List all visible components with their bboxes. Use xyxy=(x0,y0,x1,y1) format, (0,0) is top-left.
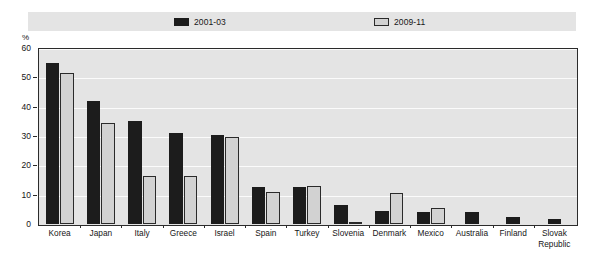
bar-2001-03 xyxy=(506,217,520,224)
bar-group xyxy=(328,49,369,224)
bar-2001-03 xyxy=(87,101,101,224)
y-axis-tick-label: 50 xyxy=(3,72,31,82)
bar-2001-03 xyxy=(375,211,389,224)
y-axis: 0102030405060 xyxy=(0,48,31,224)
y-axis-tick-label: 20 xyxy=(3,160,31,170)
legend-label-2001-03: 2001-03 xyxy=(194,17,226,27)
bar-2009-11 xyxy=(60,73,74,224)
legend-entry-2009-11: 2009-11 xyxy=(374,15,425,28)
bar-2009-11 xyxy=(266,192,280,224)
bar-2009-11 xyxy=(431,208,445,224)
bar-group xyxy=(121,49,162,224)
bar-2009-11 xyxy=(101,123,115,224)
y-axis-unit-label: % xyxy=(22,33,29,42)
y-axis-tick xyxy=(33,77,37,78)
bar-group xyxy=(204,49,245,224)
y-axis-tick xyxy=(33,195,37,196)
bar-2009-11 xyxy=(184,176,198,224)
x-axis-labels: KoreaJapanItalyGreeceIsraelSpainTurkeySl… xyxy=(39,228,575,258)
bar-group xyxy=(245,49,286,224)
y-axis-tick-label: 0 xyxy=(3,219,31,229)
bar-2009-11 xyxy=(349,222,363,224)
bar-2001-03 xyxy=(293,187,307,224)
bar-group xyxy=(369,49,410,224)
bar-2009-11 xyxy=(225,137,239,224)
bar-series-container xyxy=(39,49,575,224)
bar-2001-03 xyxy=(46,63,60,224)
y-axis-tick xyxy=(33,165,37,166)
bar-group xyxy=(80,49,121,224)
y-axis-tick-label: 10 xyxy=(3,190,31,200)
bar-2001-03 xyxy=(252,187,266,224)
bar-2009-11 xyxy=(390,193,404,224)
bar-2001-03 xyxy=(169,133,183,224)
bar-2001-03 xyxy=(548,219,562,224)
x-axis-category-label: Slovak Republic xyxy=(528,228,581,249)
bar-group xyxy=(163,49,204,224)
bar-2009-11 xyxy=(143,176,157,224)
chart-legend: 2001-03 2009-11 xyxy=(28,12,576,31)
bar-group xyxy=(410,49,451,224)
y-axis-tick-label: 40 xyxy=(3,102,31,112)
y-axis-tick xyxy=(33,107,37,108)
light-square-swatch-icon xyxy=(374,18,389,26)
y-axis-tick xyxy=(33,136,37,137)
bar-group xyxy=(451,49,492,224)
bar-2001-03 xyxy=(211,135,225,224)
bar-2001-03 xyxy=(128,121,142,224)
legend-entry-2001-03: 2001-03 xyxy=(174,15,226,28)
y-axis-tick-label: 30 xyxy=(3,131,31,141)
legend-label-2009-11: 2009-11 xyxy=(394,17,425,27)
bar-group xyxy=(534,49,575,224)
bar-group xyxy=(39,49,80,224)
bar-2001-03 xyxy=(334,205,348,224)
bar-2001-03 xyxy=(465,212,479,224)
bar-2009-11 xyxy=(307,186,321,224)
y-axis-tick-label: 60 xyxy=(3,43,31,53)
dark-square-swatch-icon xyxy=(174,18,189,26)
bar-group xyxy=(286,49,327,224)
bar-group xyxy=(493,49,534,224)
bar-2001-03 xyxy=(417,212,431,224)
